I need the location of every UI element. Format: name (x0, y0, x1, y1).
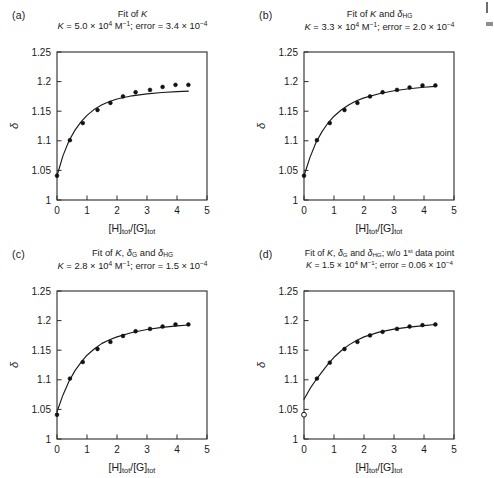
x-axis-tick-label: 2 (114, 205, 120, 216)
data-point (395, 88, 399, 92)
y-axis-tick-label: 1.15 (279, 106, 299, 117)
data-point (121, 95, 125, 99)
x-axis-tick-label: 4 (174, 444, 180, 455)
x-axis-tick-label: 1 (331, 205, 337, 216)
data-point (408, 86, 412, 90)
y-axis-tick-label: 1.15 (32, 345, 52, 356)
data-point (174, 323, 178, 327)
data-point (55, 174, 59, 178)
data-point (134, 90, 138, 94)
y-axis-tick-label: 1.2 (37, 315, 51, 326)
x-axis-tick-label: 3 (391, 205, 397, 216)
chart-panel-d: (d)Fit of K, δG and δHG; w/o 1st data po… (247, 239, 494, 478)
x-axis-tick-label: 5 (204, 205, 210, 216)
data-point (161, 325, 165, 329)
x-axis-tick-label: 0 (301, 444, 307, 455)
data-point (328, 361, 332, 365)
data-point (356, 340, 360, 344)
data-point (109, 340, 113, 344)
plot-frame (57, 52, 207, 200)
fit-curve (57, 91, 188, 176)
y-axis-tick-label: 1.2 (284, 76, 298, 87)
x-axis-tick-label: 1 (84, 444, 90, 455)
data-point (381, 90, 385, 94)
x-axis-label: [H]tot/[G]tot (109, 461, 156, 475)
plot-area: 01234511.051.11.151.21.25δ[H]tot/[G]tot (247, 0, 494, 239)
y-axis-label: δ (255, 361, 267, 368)
plot-area: 01234511.051.11.151.21.25δ[H]tot/[G]tot (247, 239, 494, 478)
x-axis-tick-label: 4 (421, 205, 427, 216)
y-axis-tick-label: 1.2 (37, 76, 51, 87)
y-axis-tick-label: 1.05 (32, 165, 52, 176)
data-point (96, 108, 100, 112)
x-axis-tick-label: 3 (144, 444, 150, 455)
data-point (368, 334, 372, 338)
y-axis-tick-label: 1.25 (32, 47, 52, 58)
data-point (315, 138, 319, 142)
y-axis-tick-label: 1.1 (37, 374, 51, 385)
x-axis-tick-label: 5 (451, 444, 457, 455)
data-point (161, 85, 165, 89)
y-axis-tick-label: 1 (292, 195, 298, 206)
y-axis-tick-label: 1.05 (32, 404, 52, 415)
plot-frame (304, 291, 454, 439)
data-point (174, 83, 178, 87)
chart-panel-b: (b)Fit of K and δHGK = 3.3 × 104 M−1; er… (247, 0, 494, 239)
data-point (121, 334, 125, 338)
data-point (328, 121, 332, 125)
x-axis-tick-label: 1 (84, 205, 90, 216)
y-axis-tick-label: 1.2 (284, 315, 298, 326)
y-axis-tick-label: 1.05 (279, 404, 299, 415)
data-point (315, 377, 319, 381)
x-axis-tick-label: 1 (331, 444, 337, 455)
data-point (356, 101, 360, 105)
data-point (343, 108, 347, 112)
figure-panel-grid: (a)Fit of KK = 5.0 × 104 M−1; error = 3.… (0, 0, 494, 478)
data-point (187, 83, 191, 87)
y-axis-label: δ (8, 361, 20, 368)
chart-panel-c: (c)Fit of K, δG and δHGK = 2.8 × 104 M−1… (0, 239, 247, 478)
data-point (81, 360, 85, 364)
x-axis-tick-label: 2 (361, 205, 367, 216)
y-axis-tick-label: 1 (292, 434, 298, 445)
y-axis-tick-label: 1.15 (279, 345, 299, 356)
plot-area: 01234511.051.11.151.21.25δ[H]tot/[G]tot (0, 0, 247, 239)
y-axis-tick-label: 1.25 (32, 286, 52, 297)
x-axis-tick-label: 3 (391, 444, 397, 455)
data-point-excluded (302, 412, 307, 417)
y-axis-tick-label: 1.15 (32, 106, 52, 117)
x-axis-tick-label: 4 (174, 205, 180, 216)
data-point (302, 174, 306, 178)
data-point (68, 377, 72, 381)
data-point (148, 327, 152, 331)
y-axis-tick-label: 1.1 (284, 135, 298, 146)
data-point (187, 323, 191, 327)
y-axis-tick-label: 1.05 (279, 165, 299, 176)
y-axis-tick-label: 1.25 (279, 286, 299, 297)
x-axis-tick-label: 3 (144, 205, 150, 216)
x-axis-tick-label: 5 (204, 444, 210, 455)
y-axis-tick-label: 1 (45, 434, 51, 445)
y-axis-tick-label: 1.1 (284, 374, 298, 385)
data-point (343, 347, 347, 351)
x-axis-label: [H]tot/[G]tot (356, 461, 403, 475)
data-point (381, 330, 385, 334)
data-point (434, 84, 438, 88)
data-point (96, 347, 100, 351)
data-point (421, 323, 425, 327)
y-axis-tick-label: 1 (45, 195, 51, 206)
data-point (368, 95, 372, 99)
plot-area: 01234511.051.11.151.21.25δ[H]tot/[G]tot (0, 239, 247, 478)
x-axis-tick-label: 0 (54, 205, 60, 216)
y-axis-label: δ (8, 122, 20, 129)
fit-curve (304, 86, 435, 175)
x-axis-tick-label: 0 (54, 444, 60, 455)
x-axis-label: [H]tot/[G]tot (356, 222, 403, 236)
data-point (81, 121, 85, 125)
x-axis-tick-label: 2 (361, 444, 367, 455)
data-point (134, 329, 138, 333)
x-axis-tick-label: 2 (114, 444, 120, 455)
data-point (434, 323, 438, 327)
x-axis-tick-label: 0 (301, 205, 307, 216)
data-point (408, 325, 412, 329)
